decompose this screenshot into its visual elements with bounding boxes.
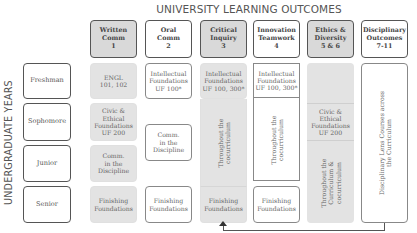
cell-text: UF 100, 300*: [202, 85, 244, 92]
cell-ethics-column: Civic &EthicalFoundationsUF 200 Througho…: [307, 63, 354, 223]
cell-text: UF 100*: [149, 85, 188, 92]
cell-text: Throughout the: [216, 118, 223, 167]
year-freshman: Freshman: [23, 63, 71, 99]
header-number: 3: [210, 43, 237, 51]
header-innovation-teamwork: InnovationTeamwork4: [253, 20, 300, 58]
vertical-text: Disciplinary Lens Courses acrossthe Curr…: [377, 91, 392, 195]
cell-text: Civic &: [311, 108, 350, 115]
cell-critical-senior: FinishingFoundations: [200, 186, 247, 223]
cell-text: in the: [98, 160, 129, 167]
cell-text: Ethical: [311, 115, 350, 122]
cell-text: Foundations: [149, 77, 188, 84]
cell-text: UF 200: [94, 129, 133, 136]
cell-text: Intellectual: [149, 70, 188, 77]
cell-text: Foundations: [149, 205, 188, 212]
cell-critical-freshman: IntellectualFoundationsUF 100, 300*: [200, 63, 247, 99]
cell-text: Foundations: [94, 122, 133, 129]
cell-text: Finishing: [257, 197, 296, 204]
diagram-title: UNIVERSITY LEARNING OUTCOMES: [90, 3, 408, 15]
cell-innovation-cocurriculum: Throughout thecocurriculum: [254, 99, 299, 180]
feedback-connector-line: [223, 223, 385, 231]
cell-text: Intellectual: [202, 70, 244, 77]
cell-innovation-freshman: IntellectualFoundationsUF 100, 300*: [254, 64, 299, 98]
header-number: 2: [157, 43, 180, 51]
cell-text: Foundations: [311, 122, 350, 129]
header-number: 5 & 6: [315, 43, 347, 51]
cell-text: Foundations: [257, 205, 296, 212]
vertical-text: Throughout theCurriculum &cocurriculum: [319, 158, 341, 207]
cell-text: Civic &: [94, 107, 133, 114]
year-sophomore: Sophomore: [23, 103, 71, 141]
cell-text: Foundations: [204, 205, 243, 212]
cell-ethics-sophomore: Civic &EthicalFoundationsUF 200: [307, 103, 354, 141]
cell-text: Comm.: [153, 131, 184, 138]
header-oral-comm: OralComm2: [145, 20, 192, 58]
cell-text: Finishing: [149, 197, 188, 204]
cell-innovation-column: IntellectualFoundationsUF 100, 300* Thro…: [253, 63, 300, 181]
cell-text: Throughout the: [269, 115, 276, 164]
cell-oral-freshman: IntellectualFoundationsUF 100*: [145, 63, 192, 99]
header-critical-inquiry: CriticalInquiry3: [200, 20, 247, 58]
cell-text: in the: [153, 139, 184, 146]
arrow-up-icon: [219, 221, 227, 226]
cell-text: Disciplinary Lens Courses across: [377, 91, 384, 195]
cell-text: cocurriculum: [224, 118, 231, 167]
vertical-text: Throughout thecocurriculum: [216, 118, 231, 167]
cell-text: Discipline: [98, 167, 129, 174]
header-disciplinary-outcomes: DisciplinaryOutcomes7-11: [361, 20, 408, 58]
cell-written-sophomore: Civic &EthicalFoundationsUF 200: [90, 103, 137, 141]
cell-written-freshman: ENGL101, 102: [90, 63, 137, 99]
cell-oral-discipline: Comm.in theDiscipline: [145, 124, 192, 161]
cell-text: UF 200: [311, 129, 350, 136]
vertical-text: Throughout thecocurriculum: [269, 115, 284, 164]
year-junior: Junior: [23, 145, 71, 182]
cell-disciplinary-lens: Disciplinary Lens Courses acrossthe Curr…: [361, 63, 408, 223]
cell-text: Foundations: [255, 77, 297, 84]
cell-text: Curriculum &: [327, 158, 334, 207]
undergraduate-years-label: UNDERGRADUATE YEARS: [3, 81, 17, 205]
cell-text: Discipline: [153, 146, 184, 153]
header-number: 7-11: [363, 43, 406, 51]
cell-text: Finishing: [94, 197, 133, 204]
cell-text: the Curriculum: [385, 91, 392, 195]
header-number: 4: [257, 43, 296, 51]
header-written-comm: WrittenComm1: [90, 20, 137, 58]
cell-innovation-senior: FinishingFoundations: [253, 186, 300, 223]
cell-text: Comm.: [98, 152, 129, 159]
cell-oral-senior: FinishingFoundations: [145, 186, 192, 223]
cell-text: Foundations: [202, 77, 244, 84]
cell-text: Throughout the: [319, 158, 326, 207]
cell-ethics-curriculum: Throughout theCurriculum &cocurriculum: [307, 142, 354, 223]
cell-text: Intellectual: [255, 70, 297, 77]
cell-written-senior: FinishingFoundations: [90, 186, 137, 223]
cell-written-junior: Comm.in theDiscipline: [90, 145, 137, 182]
year-senior: Senior: [23, 186, 71, 223]
cell-text: UF 100, 300*: [255, 84, 297, 91]
header-number: 1: [100, 43, 127, 51]
cell-text: cocurriculum: [334, 158, 341, 207]
cell-text: Foundations: [94, 205, 133, 212]
header-ethics-diversity: Ethics &Diversity5 & 6: [307, 20, 354, 58]
cell-text: Finishing: [204, 197, 243, 204]
cell-text: cocurriculum: [277, 115, 284, 164]
cell-text: 101, 102: [100, 81, 128, 88]
cell-critical-cocurriculum: Throughout thecocurriculum: [200, 99, 247, 186]
cell-text: ENGL: [100, 74, 128, 81]
cell-text: Ethical: [94, 115, 133, 122]
